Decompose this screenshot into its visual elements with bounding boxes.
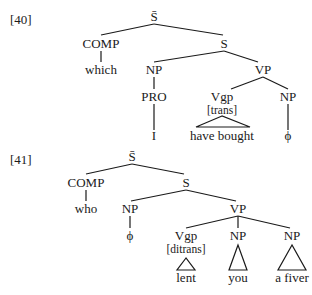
feature-ditrans: [ditrans]: [167, 243, 206, 255]
node-s-bar: S̄: [150, 9, 157, 24]
word-you: you: [228, 270, 248, 285]
node-comp: COMP: [68, 175, 105, 190]
syntax-trees: [40] S̄ COMP S which NP VP PRO Vgp [tran…: [0, 0, 312, 295]
node-np-object: NP: [280, 89, 297, 104]
node-np-object-2: NP: [284, 228, 301, 243]
node-vgp: Vgp: [175, 228, 197, 243]
tree-41: [41] S̄ COMP S who NP VP ϕ Vgp [ditrans]…: [10, 149, 309, 285]
triangle-icon: [278, 245, 306, 270]
branch-line: [154, 51, 224, 62]
feature-trans: [trans]: [207, 104, 237, 116]
example-number-40: [40]: [10, 12, 32, 27]
node-pro: PRO: [141, 89, 166, 104]
example-number-41: [41]: [10, 152, 32, 167]
node-comp: COMP: [83, 36, 120, 51]
words-a-fiver: a fiver: [275, 270, 309, 285]
node-np-subject: NP: [122, 201, 139, 216]
branch-line: [186, 216, 238, 228]
word-which: which: [85, 62, 117, 77]
word-null: ϕ: [127, 228, 134, 243]
branch-line: [186, 190, 236, 201]
word-i: I: [152, 128, 156, 143]
node-s: S: [220, 36, 227, 51]
node-np-subject: NP: [146, 62, 163, 77]
branch-line: [154, 24, 223, 35]
triangle-icon: [229, 245, 247, 270]
word-null: ϕ: [285, 128, 292, 143]
tree-40: [40] S̄ COMP S which NP VP PRO Vgp [tran…: [10, 9, 296, 143]
node-s-bar: S̄: [128, 149, 135, 164]
branch-line: [238, 216, 290, 228]
branch-line: [263, 77, 288, 89]
branch-line: [132, 164, 184, 174]
triangle-icon: [177, 258, 195, 270]
branch-line: [131, 190, 186, 201]
word-lent: lent: [176, 270, 196, 285]
node-np-object-1: NP: [230, 228, 247, 243]
node-vp: VP: [255, 62, 272, 77]
words-have-bought: have bought: [190, 128, 254, 143]
word-who: who: [75, 201, 97, 216]
node-s: S: [182, 175, 189, 190]
branch-line: [231, 77, 263, 89]
branch-line: [101, 24, 154, 35]
branch-line: [86, 164, 132, 174]
branch-line: [224, 51, 258, 62]
node-vgp: Vgp: [211, 89, 233, 104]
triangle-icon: [196, 116, 250, 127]
node-vp: VP: [230, 201, 247, 216]
